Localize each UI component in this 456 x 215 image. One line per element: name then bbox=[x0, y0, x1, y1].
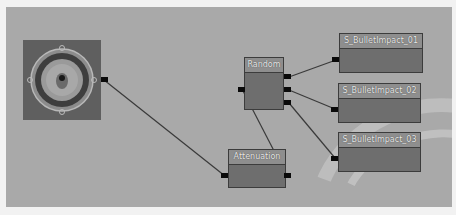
wave-player-2-title: S_BulletImpact_02 bbox=[339, 84, 420, 99]
wave-player-node-2[interactable]: S_BulletImpact_02 bbox=[338, 83, 421, 123]
wire-random-to-wave2 bbox=[289, 90, 335, 109]
attenuation-node[interactable]: Attenuation bbox=[228, 149, 286, 188]
wave-player-node-3[interactable]: S_BulletImpact_03 bbox=[338, 132, 421, 172]
speaker-icon bbox=[23, 40, 101, 120]
wave-player-3-title: S_BulletImpact_03 bbox=[339, 133, 420, 148]
wave-player-2-input-pin[interactable] bbox=[331, 107, 338, 112]
wave-player-1-input-pin[interactable] bbox=[332, 57, 339, 62]
random-output-pin-3[interactable] bbox=[284, 100, 291, 105]
attenuation-output-pin[interactable] bbox=[284, 173, 291, 178]
attenuation-input-pin[interactable] bbox=[221, 173, 228, 178]
wire-output-to-attenuation bbox=[104, 80, 225, 176]
wire-random-to-wave3 bbox=[289, 103, 335, 158]
wire-random-to-wave1 bbox=[289, 60, 336, 77]
random-node-title: Random bbox=[245, 58, 283, 73]
random-node[interactable]: Random bbox=[244, 57, 284, 110]
wave-player-1-title: S_BulletImpact_01 bbox=[340, 34, 422, 49]
wave-player-3-input-pin[interactable] bbox=[331, 156, 338, 161]
attenuation-node-title: Attenuation bbox=[229, 150, 285, 165]
graph-canvas[interactable]: Attenuation Random S_BulletImpact_01 S_B… bbox=[6, 7, 452, 207]
random-input-pin[interactable] bbox=[238, 87, 245, 92]
output-node-pin[interactable] bbox=[101, 77, 108, 82]
wave-player-node-1[interactable]: S_BulletImpact_01 bbox=[339, 33, 423, 73]
sound-output-node[interactable] bbox=[23, 40, 101, 120]
random-output-pin-1[interactable] bbox=[284, 74, 291, 79]
random-output-pin-2[interactable] bbox=[284, 87, 291, 92]
